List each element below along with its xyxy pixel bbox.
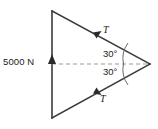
angle-arc-bottom [123,64,128,85]
applied-force-label: 5000 N [3,57,34,67]
angle-bottom-label: 30° [103,67,117,77]
tension-bottom-label: T [100,94,106,104]
angle-top-label: 30° [103,49,117,59]
tension-top-label: T [103,25,109,35]
upper-inclined-member [52,11,150,64]
angle-arc-top [123,43,128,64]
lower-inclined-member [52,64,150,118]
applied-force-arrowhead-icon [48,54,56,64]
force-diagram: 5000 N T T 30° 30° [0,0,158,129]
